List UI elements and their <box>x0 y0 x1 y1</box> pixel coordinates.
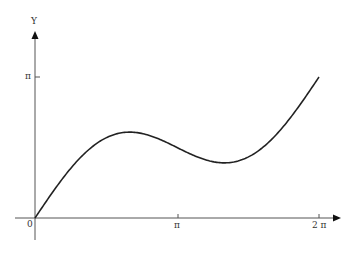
x-tick-label-pi: π <box>174 221 180 230</box>
function-curve <box>35 77 319 218</box>
y-axis-label: Y <box>31 17 37 26</box>
chart-canvas <box>0 0 358 256</box>
y-axis-arrow-icon <box>32 31 39 39</box>
origin-label: 0 <box>27 220 33 229</box>
y-tick-label-pi: π <box>25 72 31 81</box>
x-axis-arrow-icon <box>333 215 341 222</box>
x-tick-label-2pi: 2 π <box>312 221 327 230</box>
